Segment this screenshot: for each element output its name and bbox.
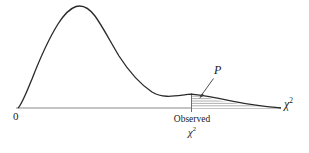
chi-square-figure: 0 χ2 P Observedχ2 [0, 0, 309, 153]
observed-value-label: Observedχ2 [164, 115, 220, 137]
x-axis-label-superscript: 2 [289, 96, 293, 105]
origin-label: 0 [13, 111, 19, 123]
observed-value-superscript: 2 [193, 125, 196, 132]
chi-square-plot [0, 0, 309, 153]
p-callout-arrow-shaft [201, 79, 214, 97]
observed-value-label-line2: χ2 [164, 126, 220, 138]
observed-value-label-line1: Observed [174, 114, 210, 124]
p-value-label: P [214, 64, 221, 77]
x-axis-label: χ2 [284, 97, 293, 111]
chi-square-density-curve [18, 6, 281, 108]
